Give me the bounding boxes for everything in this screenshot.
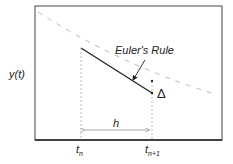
- euler-rule-label: Euler's Rule: [115, 44, 174, 56]
- y-axis-label: y(t): [9, 68, 25, 80]
- true-point: [151, 80, 153, 82]
- tick-label-tn: tn: [76, 143, 83, 157]
- tick-label-tn1: tn+1: [145, 143, 160, 157]
- annotation-arrow: [133, 60, 145, 80]
- step-h-label: h: [113, 117, 119, 129]
- plot-frame: [35, 6, 222, 140]
- euler-point: [151, 92, 153, 94]
- diagram-canvas: [0, 0, 233, 164]
- delta-label: Δ: [157, 86, 166, 101]
